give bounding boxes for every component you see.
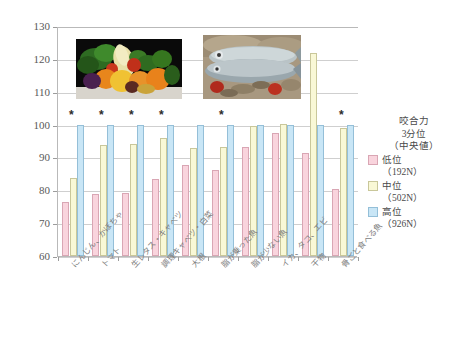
y-axis-tick-label-60: 60	[20, 251, 50, 262]
legend-item-mid: 中位	[368, 180, 460, 193]
legend-title-line3: （中央値）	[368, 140, 460, 153]
bar-chart: 60708090100110120130 ******	[0, 0, 460, 355]
legend-sublabel-low: （192N）	[382, 166, 460, 179]
y-axis-tick-label-100: 100	[20, 120, 50, 131]
legend-sublabel-high: （926N）	[382, 218, 460, 231]
x-axis-tick	[148, 257, 149, 261]
y-axis-tick-label-130: 130	[20, 21, 50, 32]
x-axis-tick	[208, 257, 209, 261]
legend-label-high: 高位	[382, 206, 402, 219]
legend-title-line1: 咬合力	[368, 115, 460, 128]
significance-star: *	[339, 109, 344, 121]
legend-swatch-low	[368, 155, 378, 165]
bar-high	[257, 125, 264, 256]
legend-label-mid: 中位	[382, 180, 402, 193]
vegetables-photo	[76, 39, 182, 99]
x-axis-tick	[178, 257, 179, 261]
significance-star: *	[219, 109, 224, 121]
bar-high	[347, 125, 354, 256]
x-axis-tick	[118, 257, 119, 261]
bar-mid	[130, 144, 137, 256]
x-axis-tick	[88, 257, 89, 261]
x-axis-tick	[298, 257, 299, 261]
legend-swatch-high	[368, 207, 378, 217]
x-axis-tick	[358, 257, 359, 261]
bar-high	[137, 125, 144, 256]
legend-sublabel-mid: （502N）	[382, 192, 460, 205]
significance-star: *	[99, 109, 104, 121]
y-axis-tick-label-70: 70	[20, 218, 50, 229]
bar-mid	[340, 128, 347, 256]
bar-high	[287, 125, 294, 256]
fish-photo	[203, 35, 301, 99]
y-axis-tick-label-110: 110	[20, 87, 50, 98]
bar-high	[77, 125, 84, 256]
y-axis-tick-label-80: 80	[20, 185, 50, 196]
x-axis-tick	[238, 257, 239, 261]
x-axis-tick	[268, 257, 269, 261]
bar-mid	[220, 147, 227, 256]
legend-title-line2: 3分位	[368, 128, 460, 141]
bar-group	[328, 26, 358, 256]
legend-items: 低位（192N）中位（502N）高位（926N）	[368, 154, 460, 231]
significance-star: *	[69, 109, 74, 121]
bar-high	[317, 125, 324, 256]
bar-high	[197, 125, 204, 256]
x-axis-tick	[58, 257, 59, 261]
significance-star: *	[159, 109, 164, 121]
legend: 咬合力 3分位 （中央値） 低位（192N）中位（502N）高位（926N）	[368, 115, 460, 231]
bar-mid	[70, 178, 77, 256]
y-axis-tick-label-90: 90	[20, 152, 50, 163]
bar-low	[332, 189, 339, 256]
legend-swatch-mid	[368, 181, 378, 191]
x-axis-tick	[328, 257, 329, 261]
y-axis-tick-mark-60	[53, 257, 57, 258]
legend-item-high: 高位	[368, 206, 460, 219]
bar-high	[107, 125, 114, 256]
bar-low	[122, 193, 129, 256]
significance-star: *	[129, 109, 134, 121]
legend-label-low: 低位	[382, 154, 402, 167]
y-axis-tick-label-120: 120	[20, 54, 50, 65]
bar-high	[167, 125, 174, 256]
bar-low	[62, 202, 69, 256]
bar-high	[227, 125, 234, 256]
legend-item-low: 低位	[368, 154, 460, 167]
